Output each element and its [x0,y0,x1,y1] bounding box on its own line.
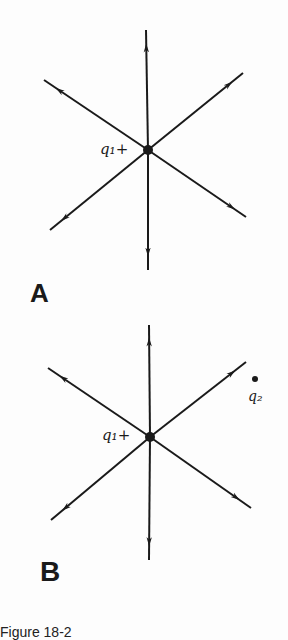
charge-q1-dot [143,145,153,155]
panel-a-label: A [30,278,49,309]
field-line [149,437,150,560]
field-line [51,437,150,520]
field-line [149,325,150,437]
charge-q1-label-a: q₁+ [100,140,128,158]
field-line [150,437,251,508]
plus-sign-icon: + [116,140,129,158]
charge-q2-dot [252,376,258,382]
figure-caption: Figure 18-2 [0,624,72,640]
field-line [150,362,246,437]
panel-a-field-lines [44,30,246,270]
panel-b-label: B [40,556,60,588]
field-line [146,30,148,150]
charge-q1-label-b: q₁+ [102,426,130,444]
charge-q2-label: q₂ [248,388,263,404]
plus-sign-icon: + [118,426,131,444]
charge-q1-dot [145,432,155,442]
panel-b-field-lines [48,325,258,560]
